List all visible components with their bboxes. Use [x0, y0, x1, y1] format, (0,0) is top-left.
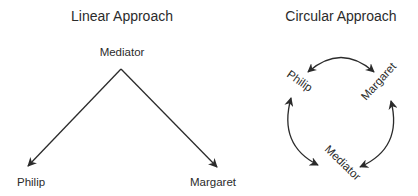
linear-margaret-label: Margaret	[190, 176, 237, 188]
linear-approach-diagram: Linear Approach Mediator Philip Margaret	[17, 8, 237, 188]
arrow-mediator-to-margaret	[121, 69, 217, 167]
arrow-mediator-to-philip	[28, 69, 121, 166]
circular-margaret-label: Margaret	[359, 60, 399, 103]
circular-philip-label: Philip	[285, 68, 315, 94]
linear-approach-title: Linear Approach	[71, 8, 173, 24]
arrow-philip-mediator	[288, 98, 318, 165]
circular-mediator-label: Mediator	[323, 143, 364, 183]
arrow-margaret-mediator	[360, 101, 394, 167]
arrow-philip-margaret	[308, 58, 374, 73]
circular-approach-title: Circular Approach	[285, 8, 396, 24]
circular-approach-diagram: Circular Approach Philip Margaret Mediat…	[285, 8, 399, 183]
linear-philip-label: Philip	[17, 176, 45, 188]
linear-mediator-label: Mediator	[100, 46, 145, 58]
diagram-canvas: Linear Approach Mediator Philip Margaret…	[0, 0, 418, 196]
